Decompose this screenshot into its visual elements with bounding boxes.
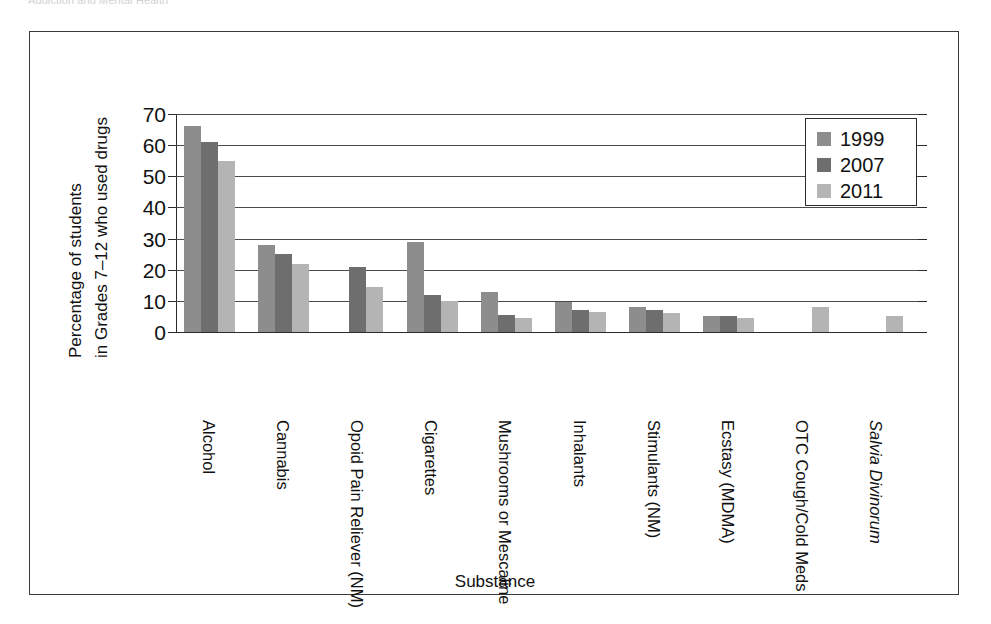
- legend-label: 2011: [840, 181, 883, 201]
- y-tick-label-20: 20: [143, 260, 166, 281]
- x-axis-label: Stimulants (NM): [645, 420, 662, 538]
- y-tick-right-60: [918, 145, 927, 146]
- x-axis-label: Salvia Divinorum: [868, 420, 885, 544]
- figure-frame: Percentage of students in Grades 7–12 wh…: [29, 31, 959, 595]
- bar: [349, 267, 366, 332]
- y-tick-30: [168, 239, 176, 240]
- bar: [646, 310, 663, 332]
- legend-swatch: [817, 132, 831, 146]
- y-tick-right-0: [918, 332, 927, 333]
- bar-group: [481, 114, 532, 332]
- bar-group: [407, 114, 458, 332]
- bar: [258, 245, 275, 332]
- bar: [407, 242, 424, 332]
- y-tick-label-0: 0: [154, 322, 166, 343]
- bar: [424, 295, 441, 332]
- legend: 199920072011: [805, 118, 917, 206]
- bar: [218, 161, 235, 332]
- bar-group: [258, 114, 309, 332]
- legend-item: 2011: [817, 178, 916, 204]
- x-axis-label: Cigarettes: [423, 420, 440, 495]
- bar: [292, 264, 309, 333]
- y-tick-right-50: [918, 176, 927, 177]
- y-tick-0: [168, 332, 176, 333]
- y-tick-right-30: [918, 239, 927, 240]
- bar: [515, 318, 532, 332]
- x-axis-line: [168, 332, 918, 333]
- y-axis-line: [176, 114, 177, 332]
- bar: [366, 287, 383, 332]
- y-tick-70: [168, 114, 176, 115]
- bar: [555, 302, 572, 332]
- y-tick-right-20: [918, 270, 927, 271]
- x-axis-label: Ecstasy (MDMA): [719, 420, 736, 544]
- x-axis-label: Inhalants: [571, 420, 588, 487]
- bar: [572, 310, 589, 332]
- y-axis-title-line-2: in Grades 7–12 who used drugs: [92, 117, 112, 358]
- bar-group: [332, 114, 383, 332]
- y-axis-title: Percentage of students in Grades 7–12 wh…: [66, 86, 126, 361]
- bar: [441, 301, 458, 332]
- bar: [720, 316, 737, 332]
- legend-label: 1999: [840, 129, 885, 149]
- legend-label: 2007: [840, 155, 885, 175]
- bar-group: [555, 114, 606, 332]
- bar: [201, 142, 218, 332]
- y-tick-right-70: [918, 114, 927, 115]
- bar: [589, 312, 606, 332]
- running-header-strip: Addiction and Mental Health: [0, 0, 991, 14]
- x-axis-title: Substance: [30, 572, 960, 592]
- y-tick-50: [168, 176, 176, 177]
- bar: [886, 316, 903, 332]
- bar: [629, 307, 646, 332]
- y-tick-label-60: 60: [143, 135, 166, 156]
- bar: [184, 126, 201, 332]
- x-axis-label: OTC Cough/Cold Meds: [794, 420, 811, 592]
- y-tick-label-50: 50: [143, 166, 166, 187]
- legend-swatch: [817, 158, 831, 172]
- y-tick-20: [168, 270, 176, 271]
- bar-group: [629, 114, 680, 332]
- running-header-text: Addiction and Mental Health: [28, 0, 168, 6]
- bar: [737, 318, 754, 332]
- y-axis-title-line-1: Percentage of students: [66, 183, 86, 358]
- bar: [275, 254, 292, 332]
- bar-group: [184, 114, 235, 332]
- x-axis-label: Alcohol: [200, 420, 217, 474]
- y-tick-10: [168, 301, 176, 302]
- y-tick-label-40: 40: [143, 197, 166, 218]
- y-tick-60: [168, 145, 176, 146]
- y-tick-label-70: 70: [143, 104, 166, 125]
- y-tick-right-40: [918, 207, 927, 208]
- y-tick-label-10: 10: [143, 291, 166, 312]
- y-tick-right-10: [918, 301, 927, 302]
- bar-group: [703, 114, 754, 332]
- y-tick-40: [168, 207, 176, 208]
- bar: [812, 307, 829, 332]
- legend-swatch: [817, 184, 831, 198]
- x-axis-label: Cannabis: [274, 420, 291, 490]
- bar: [498, 315, 515, 332]
- y-tick-label-30: 30: [143, 229, 166, 250]
- bar: [703, 316, 720, 332]
- bar: [481, 292, 498, 332]
- legend-item: 1999: [817, 126, 916, 152]
- bar: [663, 313, 680, 332]
- legend-item: 2007: [817, 152, 916, 178]
